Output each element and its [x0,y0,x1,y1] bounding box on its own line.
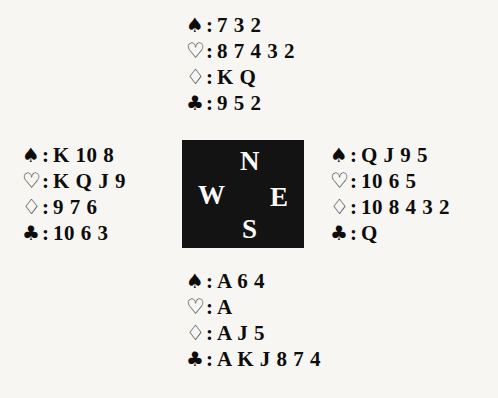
suit-separator: : [42,142,53,168]
hand-west-diamonds-row: ♢ : 9 7 6 [22,194,126,220]
diamond-icon: ♢ [22,194,42,220]
hand-south-diamonds-row: ♢ : A J 5 [186,320,321,346]
hand-west-hearts: K Q J 9 [53,168,126,194]
hand-north-hearts-row: ♡ : 8 7 4 3 2 [186,38,295,64]
diamond-icon: ♢ [186,64,206,90]
spade-icon: ♠ [186,268,206,294]
suit-separator: : [42,220,53,246]
hand-west-spades: K 10 8 [53,142,114,168]
hand-south-diamonds: A J 5 [217,320,265,346]
bridge-deal-diagram: ♠ : 7 3 2 ♡ : 8 7 4 3 2 ♢ : K Q ♣ : 9 5 … [0,0,498,398]
suit-separator: : [206,320,217,346]
hand-south-hearts-row: ♡ : A [186,294,321,320]
suit-separator: : [350,194,361,220]
hand-north-spades-row: ♠ : 7 3 2 [186,12,295,38]
diamond-icon: ♢ [330,194,350,220]
suit-separator: : [42,194,53,220]
hand-south-hearts: A [217,294,233,320]
hand-north-spades: 7 3 2 [217,12,262,38]
compass-south-label: S [242,216,257,243]
hand-east-clubs: Q [361,220,378,246]
suit-separator: : [350,220,361,246]
hand-north-diamonds: K Q [217,64,256,90]
hand-south-spades-row: ♠ : A 6 4 [186,268,321,294]
club-icon: ♣ [186,90,206,116]
suit-separator: : [206,38,217,64]
spade-icon: ♠ [330,142,350,168]
compass-north-label: N [240,148,260,175]
hand-west-clubs: 10 6 3 [53,220,109,246]
hand-east-hearts: 10 6 5 [361,168,417,194]
hand-east: ♠ : Q J 9 5 ♡ : 10 6 5 ♢ : 10 8 4 3 2 ♣ … [330,142,450,246]
spade-icon: ♠ [186,12,206,38]
compass-east-label: E [270,184,288,211]
hand-west-diamonds: 9 7 6 [53,194,98,220]
hand-east-diamonds-row: ♢ : 10 8 4 3 2 [330,194,450,220]
compass-box: N W E S [182,140,304,248]
suit-separator: : [206,64,217,90]
club-icon: ♣ [22,220,42,246]
hand-south-clubs-row: ♣ : A K J 8 7 4 [186,346,321,372]
hand-north-clubs-row: ♣ : 9 5 2 [186,90,295,116]
heart-icon: ♡ [186,294,206,320]
club-icon: ♣ [330,220,350,246]
hand-south: ♠ : A 6 4 ♡ : A ♢ : A J 5 ♣ : A K J 8 7 … [186,268,321,372]
suit-separator: : [350,142,361,168]
suit-separator: : [42,168,53,194]
suit-separator: : [206,268,217,294]
hand-west-spades-row: ♠ : K 10 8 [22,142,126,168]
hand-north-diamonds-row: ♢ : K Q [186,64,295,90]
suit-separator: : [206,346,217,372]
suit-separator: : [206,90,217,116]
heart-icon: ♡ [22,168,42,194]
hand-west: ♠ : K 10 8 ♡ : K Q J 9 ♢ : 9 7 6 ♣ : 10 … [22,142,126,246]
hand-west-hearts-row: ♡ : K Q J 9 [22,168,126,194]
club-icon: ♣ [186,346,206,372]
hand-north-clubs: 9 5 2 [217,90,262,116]
suit-separator: : [206,12,217,38]
hand-east-hearts-row: ♡ : 10 6 5 [330,168,450,194]
spade-icon: ♠ [22,142,42,168]
hand-south-spades: A 6 4 [217,268,265,294]
diamond-icon: ♢ [186,320,206,346]
hand-north-hearts: 8 7 4 3 2 [217,38,295,64]
hand-east-spades: Q J 9 5 [361,142,428,168]
hand-west-clubs-row: ♣ : 10 6 3 [22,220,126,246]
heart-icon: ♡ [330,168,350,194]
compass-west-label: W [198,182,225,209]
suit-separator: : [350,168,361,194]
hand-east-spades-row: ♠ : Q J 9 5 [330,142,450,168]
hand-east-diamonds: 10 8 4 3 2 [361,194,450,220]
hand-east-clubs-row: ♣ : Q [330,220,450,246]
hand-south-clubs: A K J 8 7 4 [217,346,321,372]
suit-separator: : [206,294,217,320]
hand-north: ♠ : 7 3 2 ♡ : 8 7 4 3 2 ♢ : K Q ♣ : 9 5 … [186,12,295,116]
heart-icon: ♡ [186,38,206,64]
